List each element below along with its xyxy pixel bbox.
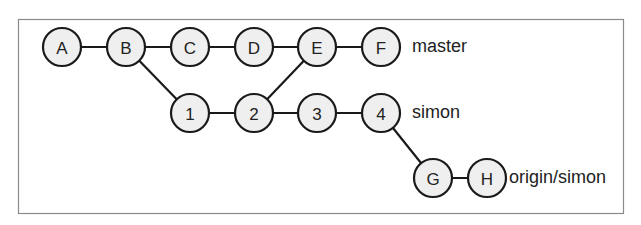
commit-node-E: E: [298, 28, 336, 66]
commit-node-1: 1: [171, 94, 209, 132]
commit-node-B: B: [107, 28, 145, 66]
commit-node-4: 4: [362, 94, 400, 132]
commit-graph-diagram: ABCDEF1234GH mastersimonorigin/simon: [0, 0, 641, 225]
commit-label: B: [120, 39, 131, 58]
commit-label: 4: [376, 105, 385, 124]
commit-node-D: D: [235, 28, 273, 66]
commit-node-G: G: [414, 159, 452, 197]
commit-node-2: 2: [235, 94, 273, 132]
commit-node-H: H: [468, 159, 506, 197]
commit-label: C: [184, 39, 196, 58]
commit-label: H: [481, 170, 493, 189]
commit-label: G: [426, 170, 439, 189]
commit-node-C: C: [171, 28, 209, 66]
commit-node-A: A: [43, 28, 81, 66]
branch-label-simon: simon: [412, 102, 460, 122]
branch-label-master: master: [412, 36, 467, 56]
branch-label-origin-simon: origin/simon: [509, 167, 606, 187]
commit-node-F: F: [362, 28, 400, 66]
commit-label: 2: [249, 105, 258, 124]
commit-label: A: [56, 39, 68, 58]
commit-label: D: [248, 39, 260, 58]
commit-label: F: [376, 39, 386, 58]
commit-node-3: 3: [298, 94, 336, 132]
commit-label: 1: [185, 105, 194, 124]
commit-label: 3: [312, 105, 321, 124]
commit-label: E: [311, 39, 322, 58]
